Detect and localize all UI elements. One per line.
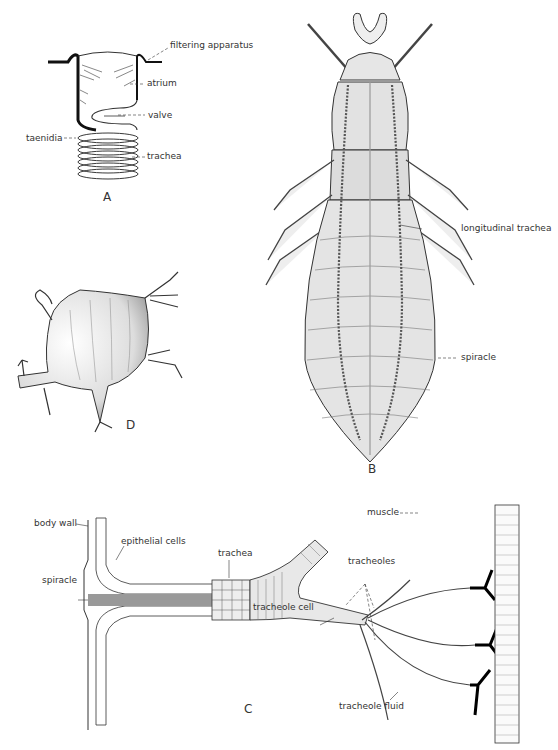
label-muscle: muscle <box>367 508 399 517</box>
panel-c-tracheole-diagram: body wall epithelial cells spiracle trac… <box>0 480 558 750</box>
label-tracheole-cell: tracheole cell <box>253 603 314 612</box>
panel-letter-c: C <box>244 702 252 716</box>
label-taenidia: taenidia <box>26 134 63 143</box>
label-trachea-a: trachea <box>147 152 181 161</box>
spiracle-atrium-drawing <box>0 0 260 200</box>
label-valve: valve <box>148 111 172 120</box>
label-body-wall: body wall <box>34 519 77 528</box>
air-sac-drawing <box>0 200 260 450</box>
panel-letter-b: B <box>368 462 376 476</box>
label-tracheoles: tracheoles <box>348 557 395 566</box>
label-tracheole-fluid: tracheole fluid <box>339 702 404 711</box>
label-spiracle-c: spiracle <box>42 576 77 585</box>
label-longitudinal-trachea: longitudinal trachea <box>461 224 551 233</box>
label-atrium: atrium <box>147 79 177 88</box>
larva-drawing <box>260 0 558 480</box>
label-spiracle-b: spiracle <box>461 353 496 362</box>
panel-a-spiracle-diagram: filtering apparatus atrium valve taenidi… <box>0 0 260 200</box>
trachea-tracheole-drawing <box>0 480 558 750</box>
label-filtering-apparatus: filtering apparatus <box>170 41 253 50</box>
panel-letter-d: D <box>126 418 135 432</box>
label-epithelial-cells: epithelial cells <box>121 537 186 546</box>
label-trachea-c: trachea <box>218 549 252 558</box>
panel-d-air-sac-diagram: D <box>0 200 260 450</box>
panel-b-larva-tracheal-system: longitudinal trachea spiracle B <box>260 0 558 480</box>
